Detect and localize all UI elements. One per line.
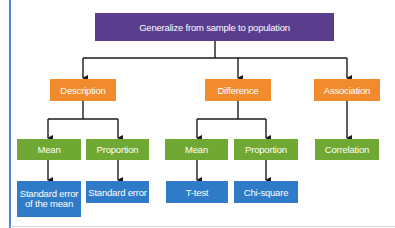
method-node-chi-square: Chi-square bbox=[234, 181, 298, 203]
method-node-standard-error: Standard error bbox=[86, 181, 149, 203]
category-label: Description bbox=[60, 85, 105, 96]
parameter-label: Correlation bbox=[325, 144, 369, 155]
parameter-node-correlation: Correlation bbox=[315, 139, 379, 160]
parameter-node-difference-mean: Mean bbox=[165, 139, 228, 160]
category-label: Association bbox=[324, 85, 370, 96]
method-node-t-test: T-test bbox=[166, 181, 228, 203]
category-node-difference: Difference bbox=[205, 79, 271, 101]
parameter-label: Mean bbox=[185, 144, 208, 155]
parameter-label: Proportion bbox=[245, 144, 287, 155]
root-node: Generalize from sample to population bbox=[95, 13, 334, 41]
diagram-canvas: Generalize from sample to population Des… bbox=[0, 0, 395, 228]
parameter-node-description-mean: Mean bbox=[17, 139, 81, 160]
method-label: Chi-square bbox=[244, 187, 288, 198]
category-node-association: Association bbox=[314, 79, 380, 101]
parameter-label: Proportion bbox=[97, 144, 139, 155]
category-label: Difference bbox=[217, 85, 258, 96]
root-node-label: Generalize from sample to population bbox=[139, 22, 290, 33]
method-label: T-test bbox=[186, 187, 209, 198]
parameter-node-difference-proportion: Proportion bbox=[234, 139, 298, 160]
method-label: Standard error of the mean bbox=[19, 189, 79, 210]
category-node-description: Description bbox=[50, 79, 116, 101]
parameter-label: Mean bbox=[38, 144, 61, 155]
parameter-node-description-proportion: Proportion bbox=[86, 139, 149, 160]
method-label: Standard error bbox=[88, 187, 146, 198]
method-node-standard-error-of-mean: Standard error of the mean bbox=[17, 181, 81, 217]
